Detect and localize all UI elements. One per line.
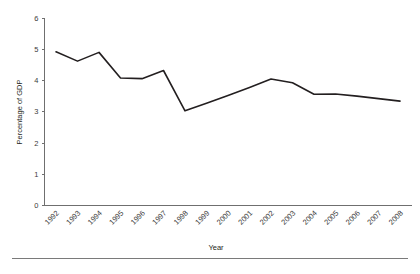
x-tick-labels: 1992199319941995199619971998199920002001… — [43, 209, 405, 227]
y-tick-label: 6 — [34, 14, 38, 23]
x-tick-label: 1992 — [43, 209, 61, 227]
y-tick-labels: 0123456 — [34, 14, 38, 211]
x-tick-label: 2008 — [387, 209, 405, 227]
x-tick-label: 2001 — [236, 209, 254, 227]
x-axis-title: Year — [208, 243, 224, 252]
y-tick-label: 0 — [34, 201, 38, 210]
x-tick-label: 2006 — [344, 209, 362, 227]
x-tick-label: 2004 — [301, 209, 319, 227]
y-tick-label: 2 — [34, 139, 38, 148]
x-tick-label: 2005 — [322, 209, 340, 227]
x-tick-label: 1997 — [150, 209, 168, 227]
data-series-line — [56, 52, 400, 111]
y-tick-label: 3 — [34, 107, 38, 116]
figure-container: 0123456 19921993199419951996199719981999… — [0, 0, 420, 274]
x-tick-label: 1998 — [172, 209, 190, 227]
y-axis-title: Percentage of GDP — [15, 79, 24, 144]
y-tick-label: 1 — [34, 170, 38, 179]
x-tick-label: 1996 — [129, 209, 147, 227]
x-axis-group: 1992199319941995199619971998199920002001… — [43, 206, 412, 227]
x-tick-label: 1994 — [86, 209, 104, 227]
y-axis-group: 0123456 — [34, 14, 44, 211]
x-tick-label: 1993 — [64, 209, 82, 227]
x-tick-label: 2000 — [215, 209, 233, 227]
x-tick-label: 2003 — [279, 209, 297, 227]
y-tick-label: 4 — [34, 76, 38, 85]
x-tick-label: 1995 — [107, 209, 125, 227]
y-tick-label: 5 — [34, 45, 38, 54]
x-tick-label: 2002 — [258, 209, 276, 227]
x-tick-label: 1999 — [193, 209, 211, 227]
x-tick-label: 2007 — [365, 209, 383, 227]
line-chart: 0123456 19921993199419951996199719981999… — [0, 0, 420, 274]
